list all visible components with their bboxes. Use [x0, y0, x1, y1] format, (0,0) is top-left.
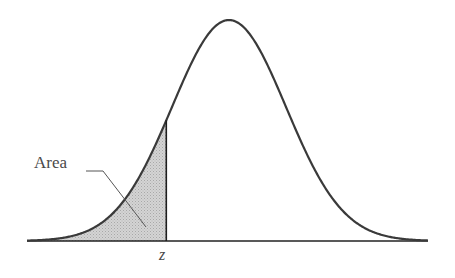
normal-distribution-figure: [0, 0, 455, 278]
normal-curve: [27, 20, 428, 241]
area-label: Area: [34, 153, 67, 173]
shaded-area: [27, 120, 166, 241]
z-label: z: [159, 246, 165, 264]
